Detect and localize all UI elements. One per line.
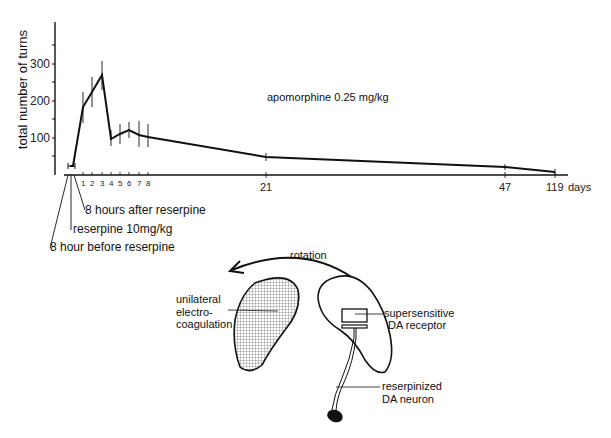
left-striatum-lesioned	[234, 278, 299, 371]
x-tick-119: 119	[546, 181, 564, 193]
x-tick-3: 3	[100, 179, 104, 188]
annotation-before-reserpine: 8 hour before reserpine	[50, 240, 175, 254]
y-tick-300: 300	[30, 57, 50, 71]
x-tick-6: 6	[127, 179, 131, 188]
lesion-label-3: coagulation	[176, 318, 232, 330]
y-axis-title: total number of turns	[15, 20, 30, 160]
x-tick-47: 47	[499, 181, 511, 193]
x-axis	[64, 172, 568, 178]
annotation-reserpine-dose: reserpine 10mg/kg	[73, 222, 172, 236]
x-tick-1: 1	[81, 179, 85, 188]
y-axis	[52, 22, 55, 175]
receptor-label-1: supersensitive	[384, 307, 454, 319]
neuron-label-2: DA neuron	[382, 393, 434, 405]
x-tick-7: 7	[137, 179, 141, 188]
rotation-label: rotation	[290, 249, 327, 261]
annotation-leaders	[50, 175, 85, 248]
x-tick-8: 8	[146, 179, 150, 188]
y-tick-100: 100	[30, 131, 50, 145]
neuron-label-1: reserpinized	[382, 380, 442, 392]
da-receptor-schematic	[325, 309, 367, 424]
lesion-label-1: unilateral	[176, 293, 221, 305]
x-tick-5: 5	[118, 179, 122, 188]
annotation-after-reserpine: 8 hours after reserpine	[85, 203, 206, 217]
lesion-label-2: electro-	[176, 306, 213, 318]
right-striatum	[318, 276, 392, 373]
x-axis-unit: days	[568, 181, 591, 193]
x-tick-21: 21	[260, 181, 272, 193]
y-tick-200: 200	[30, 94, 50, 108]
x-tick-2: 2	[90, 179, 94, 188]
drug-annotation: apomorphine 0.25 mg/kg	[267, 91, 389, 103]
data-series	[68, 61, 555, 175]
receptor-label-2: DA receptor	[388, 319, 446, 331]
x-tick-4: 4	[109, 179, 113, 188]
figure-graphics	[0, 0, 611, 438]
